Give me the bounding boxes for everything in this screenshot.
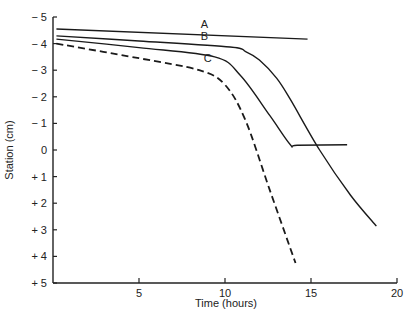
y-tick-label: − 1 — [31, 117, 47, 129]
axes: − 5− 4− 3− 2− 10+ 1+ 2+ 3+ 4+ 55101520 — [31, 11, 403, 299]
series-label-c: C — [204, 52, 212, 64]
x-axis-label: Time (hours) — [195, 297, 257, 309]
y-tick-label: + 4 — [31, 250, 47, 262]
y-tick-label: + 2 — [31, 197, 47, 209]
y-tick-label: + 5 — [31, 277, 47, 289]
y-tick-label: − 2 — [31, 91, 47, 103]
y-tick-label: + 3 — [31, 224, 47, 236]
chart: − 5− 4− 3− 2− 10+ 1+ 2+ 3+ 4+ 55101520 A… — [0, 0, 415, 324]
series-lines — [56, 29, 376, 263]
y-tick-label: − 4 — [31, 38, 47, 50]
y-tick-label: + 1 — [31, 171, 47, 183]
series-label-b: B — [201, 30, 208, 42]
y-axis-label: Station (cm) — [3, 120, 15, 179]
series-line-c — [56, 39, 347, 147]
x-tick-label: 20 — [391, 287, 403, 299]
y-tick-label: − 3 — [31, 64, 47, 76]
series-label-a: A — [201, 18, 209, 30]
x-tick-label: 5 — [136, 287, 142, 299]
series-labels: ABC — [201, 18, 212, 64]
series-line-c-dashed — [56, 44, 295, 263]
series-line-b — [56, 36, 376, 226]
y-tick-label: − 5 — [31, 11, 47, 23]
y-tick-label: 0 — [41, 144, 47, 156]
x-tick-label: 15 — [305, 287, 317, 299]
